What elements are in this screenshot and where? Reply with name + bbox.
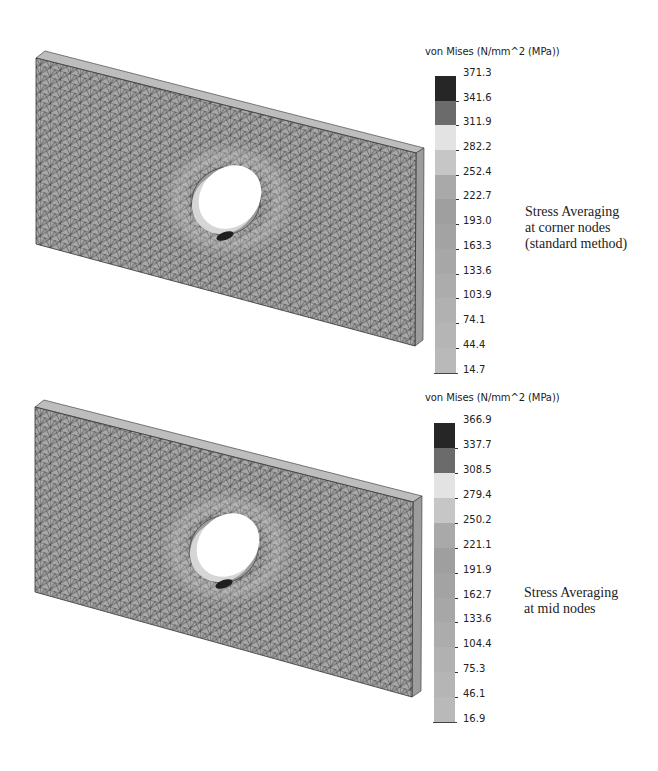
legend-label: 250.2 — [463, 514, 492, 525]
caption: Stress Averaging at corner nodes (standa… — [525, 204, 627, 252]
caption-line: Stress Averaging — [525, 204, 627, 220]
legend-label: 104.4 — [463, 638, 492, 649]
legend-label: 366.9 — [463, 414, 492, 425]
color-bar — [434, 423, 455, 722]
figure-mid-nodes: von Mises (N/mm^2 (MPa)) 366.9 337.7 308… — [0, 350, 658, 771]
legend-label: 308.5 — [463, 464, 492, 475]
legend-label: 221.1 — [463, 539, 492, 550]
legend-label: 103.9 — [463, 289, 492, 300]
color-bar — [435, 76, 456, 373]
legend-label: 311.9 — [463, 116, 492, 127]
legend-label: 44.4 — [463, 339, 485, 350]
caption-line: at mid nodes — [524, 601, 618, 617]
caption-line: at corner nodes — [525, 220, 627, 236]
legend-label: 74.1 — [463, 314, 485, 325]
figure-corner-nodes: von Mises (N/mm^2 (MPa)) 371.3 341.6 311… — [0, 0, 658, 385]
caption-line: (standard method) — [525, 236, 627, 252]
legend-label: 16.9 — [463, 713, 485, 724]
fea-plate-mesh — [0, 0, 440, 385]
legend-label: 193.0 — [463, 215, 492, 226]
legend-label: 337.7 — [463, 439, 492, 450]
legend-title: von Mises (N/mm^2 (MPa)) — [425, 46, 560, 57]
legend-label: 252.4 — [463, 166, 492, 177]
legend-label: 222.7 — [463, 190, 492, 201]
legend-label: 282.2 — [463, 141, 492, 152]
legend-label: 133.6 — [463, 613, 492, 624]
caption-line: Stress Averaging — [524, 585, 618, 601]
legend-label: 162.7 — [463, 589, 492, 600]
legend-label: 191.9 — [463, 564, 492, 575]
legend-label: 133.6 — [463, 265, 492, 276]
legend-label: 371.3 — [463, 67, 492, 78]
caption: Stress Averaging at mid nodes — [524, 585, 618, 617]
legend-title: von Mises (N/mm^2 (MPa)) — [425, 392, 560, 403]
fea-plate-mesh — [0, 350, 440, 771]
legend-label: 46.1 — [463, 688, 485, 699]
legend-label: 279.4 — [463, 489, 492, 500]
legend-label: 163.3 — [463, 240, 492, 251]
legend-label: 341.6 — [463, 92, 492, 103]
legend-label: 75.3 — [463, 663, 485, 674]
